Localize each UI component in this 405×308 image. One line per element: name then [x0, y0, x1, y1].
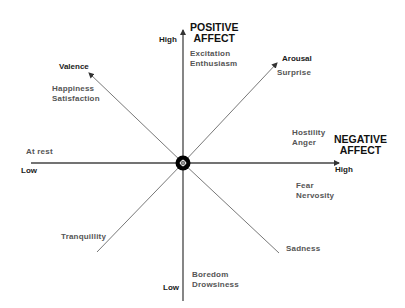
emotion-upper-left: Happiness Satisfaction [52, 84, 100, 103]
negative-low-label: Low [21, 166, 37, 176]
emotion-anger: Anger [292, 138, 325, 148]
emotion-enthusiasm: Enthusiasm [190, 59, 237, 69]
emotion-hostility: Hostility [292, 128, 325, 138]
emotion-fear: Fear [296, 181, 334, 191]
emotion-surprise: Surprise [277, 68, 311, 78]
emotion-lower-left: Tranquillity [61, 232, 106, 242]
emotion-tranquillity: Tranquillity [61, 232, 106, 242]
emotion-left: At rest [26, 147, 53, 157]
arousal-label: Arousal [282, 54, 312, 64]
valence-label: Valence [59, 62, 89, 72]
arousal-axis [183, 63, 277, 163]
positive-affect-title-line2: AFFECT [190, 33, 238, 44]
positive-high-label: High [159, 35, 177, 45]
emotion-right-upper: Hostility Anger [292, 128, 325, 147]
emotion-satisfaction: Satisfaction [52, 94, 100, 104]
negative-affect-title-line2: AFFECT [334, 145, 387, 156]
emotion-at-rest: At rest [26, 147, 53, 157]
emotion-sadness: Sadness [286, 244, 320, 254]
lower-left-diagonal [97, 163, 183, 252]
emotion-lower-right: Sadness [286, 244, 320, 254]
positive-affect-title: POSITIVE AFFECT [190, 22, 238, 44]
positive-low-label: Low [163, 283, 179, 293]
emotion-right-lower: Fear Nervosity [296, 181, 334, 200]
emotion-top: Excitation Enthusiasm [190, 49, 237, 68]
emotion-drowsiness: Drowsiness [192, 280, 239, 290]
emotion-bottom: Boredom Drowsiness [192, 270, 239, 289]
valence-axis [89, 73, 183, 163]
emotion-excitation: Excitation [190, 49, 237, 59]
lower-right-diagonal [183, 163, 279, 253]
negative-high-label: High [335, 165, 353, 175]
negative-affect-title: NEGATIVE AFFECT [334, 134, 387, 156]
emotion-upper-right: Surprise [277, 68, 311, 78]
emotion-nervosity: Nervosity [296, 191, 334, 201]
emotion-boredom: Boredom [192, 270, 239, 280]
emotion-happiness: Happiness [52, 84, 100, 94]
